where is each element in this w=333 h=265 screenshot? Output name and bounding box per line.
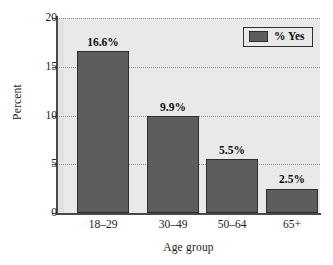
- x-tick-label-18-29: 18–29: [73, 219, 133, 231]
- bar-chart-figure: 20 15 10 5 0 Percent 16.6% 9.9% 5.5% 2.5…: [0, 0, 333, 265]
- y-axis-title: Percent: [11, 62, 23, 142]
- x-axis-line: [56, 213, 321, 215]
- legend: % Yes: [243, 27, 313, 47]
- legend-label-yes: % Yes: [274, 31, 305, 43]
- legend-swatch-yes: [249, 31, 268, 42]
- bar-label-50-64: 5.5%: [202, 145, 262, 157]
- bar-65-plus: [266, 189, 318, 213]
- bar-label-30-49: 9.9%: [143, 102, 203, 114]
- y-tick-label-0: 0: [23, 207, 57, 219]
- x-tick-label-50-64: 50–64: [202, 219, 262, 231]
- y-tick-label-15: 15: [23, 61, 57, 73]
- bar-label-18-29: 16.6%: [73, 37, 133, 49]
- gridline-20: [57, 18, 320, 19]
- bar-50-64: [206, 159, 258, 213]
- y-tick-label-10: 10: [23, 110, 57, 122]
- x-tick-label-30-49: 30–49: [143, 219, 203, 231]
- bar-label-65-plus: 2.5%: [262, 174, 322, 186]
- x-axis-title: Age group: [57, 241, 320, 253]
- x-tick-label-65-plus: 65+: [262, 219, 322, 231]
- y-tick-label-5: 5: [23, 158, 57, 170]
- y-tick-label-20: 20: [23, 12, 57, 24]
- bar-30-49: [147, 116, 199, 213]
- bar-18-29: [77, 51, 129, 213]
